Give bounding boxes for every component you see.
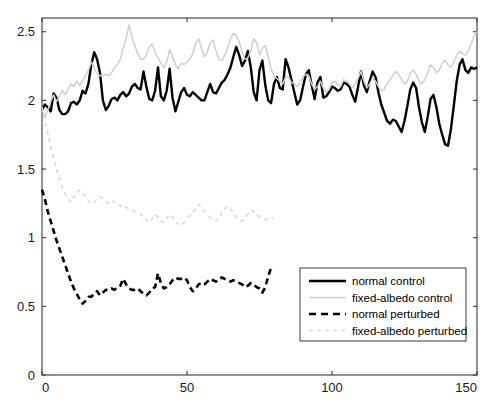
legend-label: fixed-albedo control	[352, 292, 452, 304]
chart-figure: 050100150 00.511.522.5 normal controlfix…	[0, 0, 503, 405]
legend-label: fixed-albedo perturbed	[352, 325, 467, 337]
x-tick-label: 0	[42, 380, 49, 395]
legend-label: normal perturbed	[352, 308, 440, 320]
y-tick-label: 2	[28, 93, 35, 108]
line-chart: 050100150 00.511.522.5 normal controlfix…	[0, 0, 503, 405]
x-tick-label: 50	[180, 380, 194, 395]
chart-legend: normal controlfixed-albedo controlnormal…	[300, 268, 467, 341]
y-tick-label: 1	[28, 230, 35, 245]
figure-background	[0, 0, 503, 405]
y-tick-label: 0	[28, 368, 35, 383]
y-tick-label: 1.5	[17, 162, 35, 177]
x-tick-label: 100	[321, 380, 343, 395]
y-tick-label: 2.5	[17, 24, 35, 39]
y-tick-label: 0.5	[17, 299, 35, 314]
x-tick-label: 150	[455, 380, 477, 395]
legend-label: normal control	[352, 275, 425, 287]
